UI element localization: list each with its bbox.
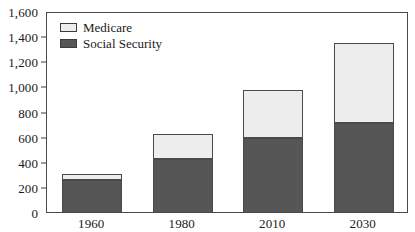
- y-axis-tick-label: 800: [18, 106, 38, 119]
- bar-segment-medicare: [153, 134, 213, 159]
- bar-segment-medicare: [62, 174, 122, 180]
- y-axis-tick-label: 200: [18, 181, 38, 194]
- y-axis-tick-label: 400: [18, 156, 38, 169]
- legend-label: Social Security: [83, 37, 162, 50]
- plot-area: MedicareSocial Security: [46, 12, 408, 213]
- stacked-bar-chart: 02004006008001,0001,2001,4001,600 Medica…: [0, 0, 415, 232]
- legend-swatch-icon: [60, 39, 77, 48]
- legend-item-social-security: Social Security: [60, 36, 162, 50]
- bar-segment-medicare: [334, 43, 394, 123]
- x-axis-tick-label: 2030: [350, 217, 376, 230]
- y-axis-tick-label: 1,600: [8, 6, 38, 19]
- bar-1980: [153, 133, 213, 212]
- y-axis: 02004006008001,0001,2001,4001,600: [0, 0, 46, 232]
- x-axis-tick-label: 2010: [259, 217, 285, 230]
- legend-swatch-icon: [60, 23, 77, 32]
- bar-segment-social-security: [62, 180, 122, 213]
- bar-2030: [334, 42, 394, 212]
- y-axis-tick-label: 1,400: [8, 31, 38, 44]
- y-axis-tick-label: 1,200: [8, 56, 38, 69]
- bar-segment-medicare: [243, 90, 303, 138]
- y-axis-tick-label: 600: [18, 131, 38, 144]
- y-axis-tick-label: 1,000: [8, 81, 38, 94]
- chart-legend: MedicareSocial Security: [60, 20, 162, 52]
- bar-1960: [62, 173, 122, 212]
- x-axis-tick-label: 1960: [78, 217, 104, 230]
- x-axis: 1960198020102030: [46, 214, 408, 232]
- bar-segment-social-security: [334, 123, 394, 213]
- y-axis-tick-label: 0: [31, 207, 38, 220]
- x-axis-tick-label: 1980: [169, 217, 195, 230]
- legend-label: Medicare: [83, 21, 132, 34]
- legend-item-medicare: Medicare: [60, 20, 162, 34]
- bar-2010: [243, 89, 303, 212]
- bar-segment-social-security: [243, 138, 303, 213]
- bar-segment-social-security: [153, 159, 213, 213]
